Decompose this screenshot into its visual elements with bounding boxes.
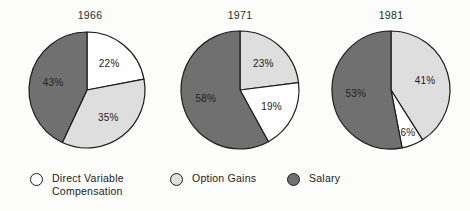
- chart-title-1966: 1966: [78, 9, 103, 21]
- legend-item-salary[interactable]: Salary: [287, 172, 340, 186]
- legend-item-option-gains[interactable]: Option Gains: [170, 172, 256, 186]
- legend-item-label: Direct Variable Compensation: [52, 172, 124, 198]
- circle-outline-icon: [30, 173, 43, 186]
- pie-chart-figure: 196622%35%43%197123%19%58%198141%6%53%Di…: [0, 0, 470, 211]
- chart-title-1971: 1971: [228, 9, 253, 21]
- slice-label: 6%: [401, 127, 416, 138]
- slice-label: 23%: [253, 58, 274, 69]
- slice-label: 19%: [261, 101, 282, 112]
- slice-label: 53%: [345, 88, 366, 99]
- pie-chart-1971: 23%19%58%: [173, 23, 307, 157]
- slice-label: 22%: [99, 58, 120, 69]
- chart-title-1981: 1981: [379, 9, 404, 21]
- legend-item-label: Salary: [309, 172, 340, 185]
- slice-label: 58%: [195, 93, 216, 104]
- slice-label: 43%: [43, 77, 64, 88]
- slice-label: 35%: [98, 112, 119, 123]
- pie-chart-1966: 22%35%43%: [21, 24, 153, 156]
- chart-legend: Direct Variable CompensationOption Gains…: [0, 166, 470, 211]
- slice-label: 41%: [415, 75, 436, 86]
- pie-slice-1981-salary: [332, 31, 402, 149]
- circle-dark-icon: [287, 173, 300, 186]
- legend-item-label: Option Gains: [192, 172, 256, 185]
- pie-chart-1981: 41%6%53%: [324, 23, 458, 157]
- legend-item-direct-variable[interactable]: Direct Variable Compensation: [30, 172, 124, 198]
- circle-light-icon: [170, 173, 183, 186]
